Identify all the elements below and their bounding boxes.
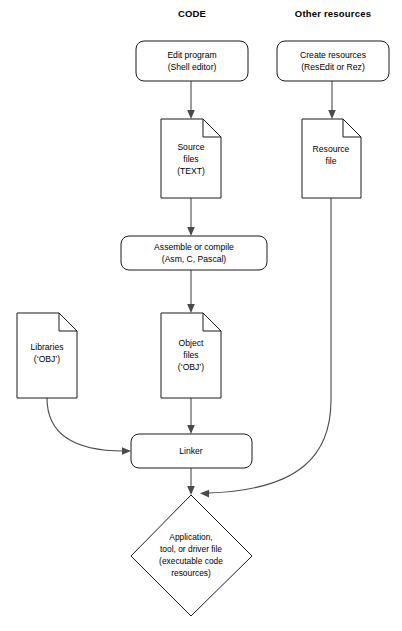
edge-linker-to-output xyxy=(187,468,195,495)
node-resource-file-line-2: file xyxy=(326,156,337,166)
column-header-code: CODE xyxy=(178,8,206,19)
node-edit-program[interactable]: Edit program (Shell editor) xyxy=(136,41,248,81)
node-output-application[interactable]: Application, tool, or driver file (execu… xyxy=(131,495,252,616)
node-object-files-line-3: (‘OBJ’) xyxy=(178,362,204,372)
node-resource-file-line-1: Resource xyxy=(313,144,350,154)
node-source-files-line-2: files xyxy=(183,154,198,164)
node-output-line-3: (executable code xyxy=(159,556,223,566)
edge-object-to-linker xyxy=(187,398,195,434)
node-create-resources-line-1: Create resources xyxy=(300,50,366,60)
node-linker[interactable]: Linker xyxy=(131,434,252,468)
node-resource-file[interactable]: Resource file xyxy=(302,119,361,198)
column-header-other-resources: Other resources xyxy=(295,8,371,19)
edge-edit-to-source xyxy=(187,81,195,119)
node-assemble-or-compile[interactable]: Assemble or compile (Asm, C, Pascal) xyxy=(121,236,267,270)
node-object-files-line-2: files xyxy=(183,350,198,360)
node-create-resources-line-2: (ResEdit or Rez) xyxy=(301,62,365,72)
node-output-line-4: resources) xyxy=(171,568,211,578)
edge-source-to-assemble xyxy=(187,198,195,236)
edge-assemble-to-object xyxy=(187,270,195,313)
node-assemble-line-1: Assemble or compile xyxy=(154,242,234,252)
node-source-files-line-3: (TEXT) xyxy=(177,166,205,176)
flowchart-diagram: CODE Other resources xyxy=(0,0,402,631)
node-edit-program-line-2: (Shell editor) xyxy=(168,62,217,72)
node-libraries-line-2: (‘OBJ’) xyxy=(34,354,60,364)
node-output-line-1: Application, xyxy=(169,532,212,542)
node-assemble-line-2: (Asm, C, Pascal) xyxy=(162,254,227,264)
node-output-line-2: tool, or driver file xyxy=(160,544,222,554)
node-object-files-line-1: Object xyxy=(179,338,204,348)
node-create-resources[interactable]: Create resources (ResEdit or Rez) xyxy=(277,41,389,81)
node-linker-label: Linker xyxy=(179,446,203,456)
node-source-files-line-1: Source xyxy=(177,142,204,152)
node-source-files[interactable]: Source files (TEXT) xyxy=(161,119,221,198)
node-libraries[interactable]: Libraries (‘OBJ’) xyxy=(17,313,77,398)
node-libraries-line-1: Libraries xyxy=(31,342,64,352)
node-edit-program-line-1: Edit program xyxy=(167,50,216,60)
flowchart-canvas: CODE Other resources xyxy=(0,0,402,631)
node-edit-program-box[interactable] xyxy=(136,41,248,81)
node-object-files[interactable]: Object files (‘OBJ’) xyxy=(161,313,221,398)
edge-create-to-resource xyxy=(328,81,336,119)
node-create-resources-box[interactable] xyxy=(277,41,389,81)
edge-libraries-to-linker xyxy=(47,398,131,455)
